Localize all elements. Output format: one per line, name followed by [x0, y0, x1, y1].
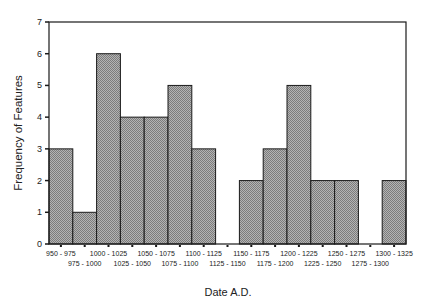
x-tick-mark	[131, 245, 133, 247]
x-tick-label: 1250 - 1275	[328, 250, 365, 257]
x-tick-label: 975 - 1000	[68, 260, 102, 267]
x-tick-mark	[227, 245, 229, 247]
bars-group	[49, 54, 406, 244]
y-tick-label: 4	[37, 112, 42, 122]
bar	[382, 181, 406, 244]
bar	[49, 149, 73, 244]
x-tick-label: 1025 - 1050	[114, 260, 151, 267]
bar	[239, 181, 263, 244]
x-tick-mark	[274, 245, 276, 247]
bar	[144, 117, 168, 244]
x-tick-mark	[369, 245, 371, 247]
x-tick-label: 1275 - 1300	[352, 260, 389, 267]
x-tick-mark	[322, 245, 324, 247]
x-tick-mark	[84, 245, 86, 247]
y-tick-label: 6	[37, 49, 42, 59]
bar	[168, 85, 192, 244]
y-tick-label: 7	[37, 17, 42, 27]
y-tick-label: 0	[37, 239, 42, 249]
bar	[335, 181, 359, 244]
x-tick-label: 1150 - 1175	[233, 250, 269, 257]
x-tick-label: 950 - 975	[46, 250, 76, 257]
x-tick-mark	[179, 245, 181, 247]
x-tick-label: 1200 - 1225	[280, 250, 317, 257]
bar	[97, 54, 121, 244]
x-tick-mark	[298, 245, 300, 247]
x-tick-label: 1125 - 1150	[209, 260, 245, 267]
x-tick-mark	[346, 245, 348, 247]
x-tick-mark	[203, 245, 205, 247]
x-tick-label: 1175 - 1200	[257, 260, 294, 267]
x-tick-label: 1075 - 1100	[161, 260, 198, 267]
y-tick-label: 3	[37, 144, 42, 154]
y-tick-label: 1	[37, 207, 42, 217]
y-axis-label: Frequency of Features	[12, 75, 24, 191]
bar	[73, 212, 97, 244]
y-tick-label: 5	[37, 80, 42, 90]
x-tick-mark	[393, 245, 395, 247]
x-tick-mark	[155, 245, 157, 247]
x-tick-label: 1000 - 1025	[90, 250, 127, 257]
bar	[287, 85, 311, 244]
x-tick-label: 1050 - 1075	[137, 250, 174, 257]
bar	[120, 117, 144, 244]
x-axis-label: Date A.D.	[204, 286, 251, 298]
bar	[192, 149, 216, 244]
bar	[263, 149, 287, 244]
x-tick-mark	[60, 245, 62, 247]
y-tick-label: 2	[37, 176, 42, 186]
histogram-chart: 01234567 950 - 975975 - 10001000 - 10251…	[0, 0, 429, 305]
x-tick-label: 1300 - 1325	[375, 250, 412, 257]
x-tick-label: 1100 - 1125	[186, 250, 222, 257]
x-axis: 950 - 975975 - 10001000 - 10251025 - 105…	[46, 245, 413, 267]
x-tick-mark	[250, 245, 252, 247]
x-tick-label: 1225 - 1250	[304, 260, 341, 267]
x-tick-mark	[108, 245, 110, 247]
bar	[311, 181, 335, 244]
y-axis: 01234567	[37, 17, 49, 249]
